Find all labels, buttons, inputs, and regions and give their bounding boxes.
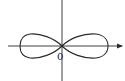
origin-label: 0 xyxy=(57,51,63,62)
lemniscate-diagram: 0 xyxy=(0,0,125,81)
origin-point xyxy=(61,45,64,48)
